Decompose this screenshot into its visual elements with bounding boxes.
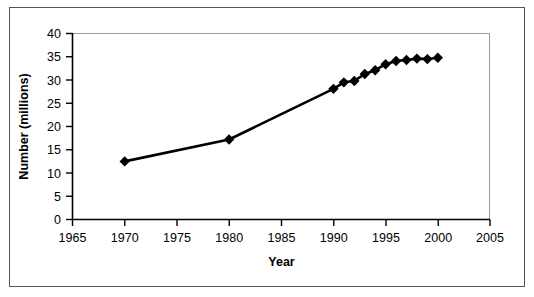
chart-figure: 0 5 10 15 20 25 30 35 40 1965 1970 1975 … [0,0,534,297]
y-axis-ticks [66,34,73,220]
y-tick-label: 10 [47,167,61,181]
x-tick-label: 2000 [424,231,452,245]
x-axis-ticks [73,220,491,227]
x-tick-label: 1985 [268,231,296,245]
y-tick-label: 0 [54,213,61,227]
x-tick-label: 1975 [163,231,191,245]
x-tick-label: 2005 [476,231,504,245]
x-tick-label: 1990 [320,231,348,245]
x-tick-label: 1995 [372,231,400,245]
y-tick-label: 40 [47,27,61,41]
x-tick-label: 1970 [111,231,139,245]
y-tick-label: 5 [54,190,61,204]
y-tick-label: 15 [47,143,61,157]
y-axis-title: Number (millions) [17,73,31,179]
x-tick-label: 1965 [59,231,87,245]
x-axis-tick-labels: 1965 1970 1975 1980 1985 1990 1995 2000 … [59,231,504,245]
y-axis-tick-labels: 0 5 10 15 20 25 30 35 40 [47,27,61,227]
y-tick-label: 20 [47,120,61,134]
y-tick-label: 25 [47,97,61,111]
x-tick-label: 1980 [215,231,243,245]
line-chart: 0 5 10 15 20 25 30 35 40 1965 1970 1975 … [0,0,534,297]
x-axis-title: Year [268,255,295,269]
y-tick-label: 30 [47,74,61,88]
y-tick-label: 35 [47,50,61,64]
